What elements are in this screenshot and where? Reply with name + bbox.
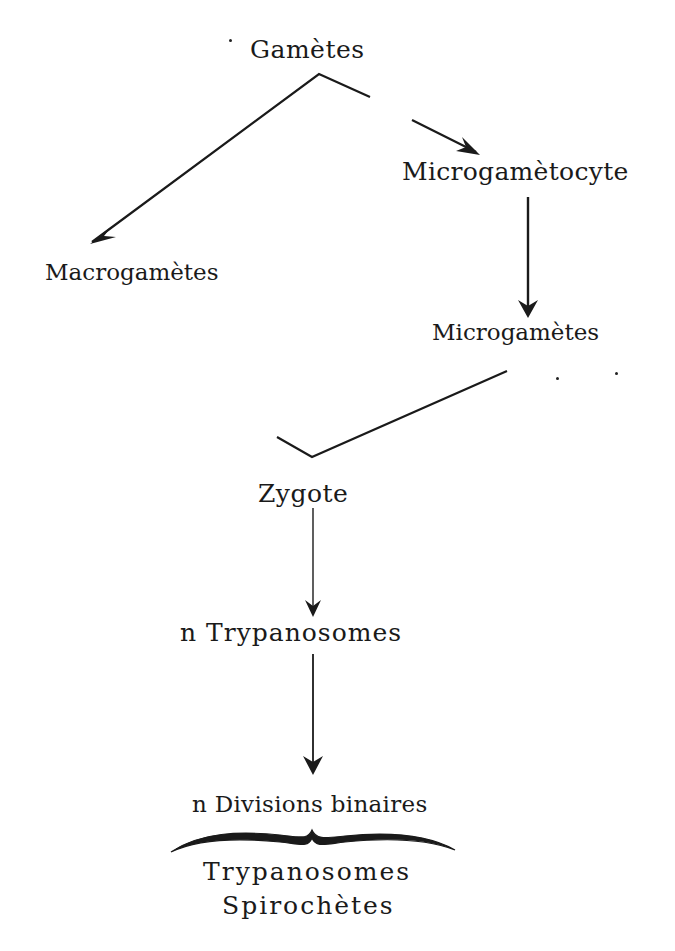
node-n-trypanosomes: n Trypanosomes <box>180 620 402 645</box>
node-n-divisions-binaires: n Divisions binaires <box>192 793 428 816</box>
node-macrogametes: Macrogamètes <box>45 261 219 284</box>
diagram-canvas: Gamètes Microgamètocyte Macrogamètes Mic… <box>0 0 675 951</box>
arrowhead-icon <box>90 226 116 244</box>
arrowhead-icon <box>456 137 480 155</box>
node-result-trypanosomes: Trypanosomes <box>203 859 411 884</box>
print-speck <box>556 377 559 380</box>
microgametes-zygote-connector <box>277 371 507 457</box>
brace-icon <box>171 830 455 852</box>
gametes-branch-connector <box>92 74 370 242</box>
node-gametes: Gamètes <box>250 37 365 62</box>
node-microgametes: Microgamètes <box>432 321 599 344</box>
node-result-spirochetes: Spirochètes <box>222 893 395 918</box>
print-speck <box>229 39 232 42</box>
print-speck <box>615 372 618 375</box>
node-zygote: Zygote <box>258 481 348 506</box>
node-microgametocyte: Microgamètocyte <box>402 159 629 184</box>
